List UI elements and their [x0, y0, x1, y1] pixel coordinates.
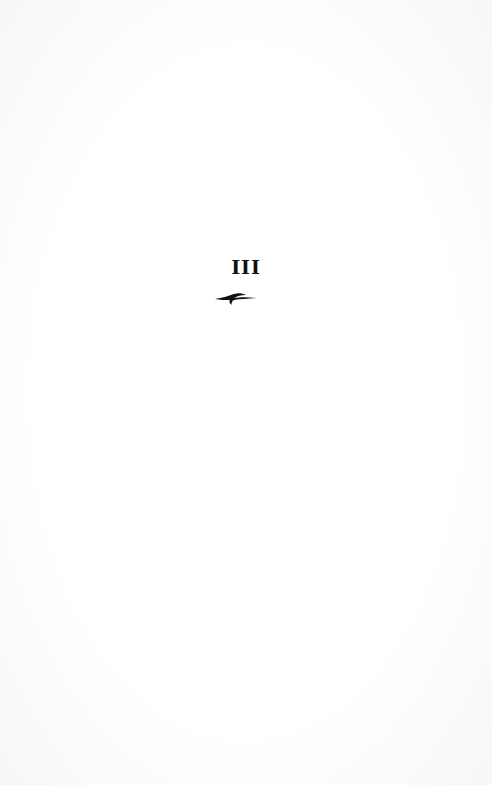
- book-page: III: [0, 0, 492, 785]
- swash-ornament-icon: [214, 290, 258, 306]
- chapter-number: III: [0, 256, 492, 278]
